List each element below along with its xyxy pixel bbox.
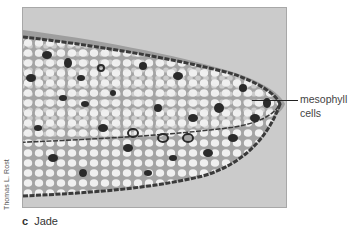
panel-letter: c: [22, 215, 28, 227]
callout-mesophyll-cells: mesophyll cells: [300, 92, 347, 120]
callout-leader-line: [252, 100, 298, 101]
callout-line-2: cells: [300, 106, 347, 120]
leaf-cross-section-image: [23, 8, 287, 208]
photo-credit: Thomas L. Rost: [3, 159, 10, 210]
panel-caption: cJade: [22, 215, 58, 227]
callout-line-1: mesophyll: [300, 92, 347, 106]
micrograph-photo: [22, 7, 287, 208]
panel-title: Jade: [34, 215, 58, 227]
